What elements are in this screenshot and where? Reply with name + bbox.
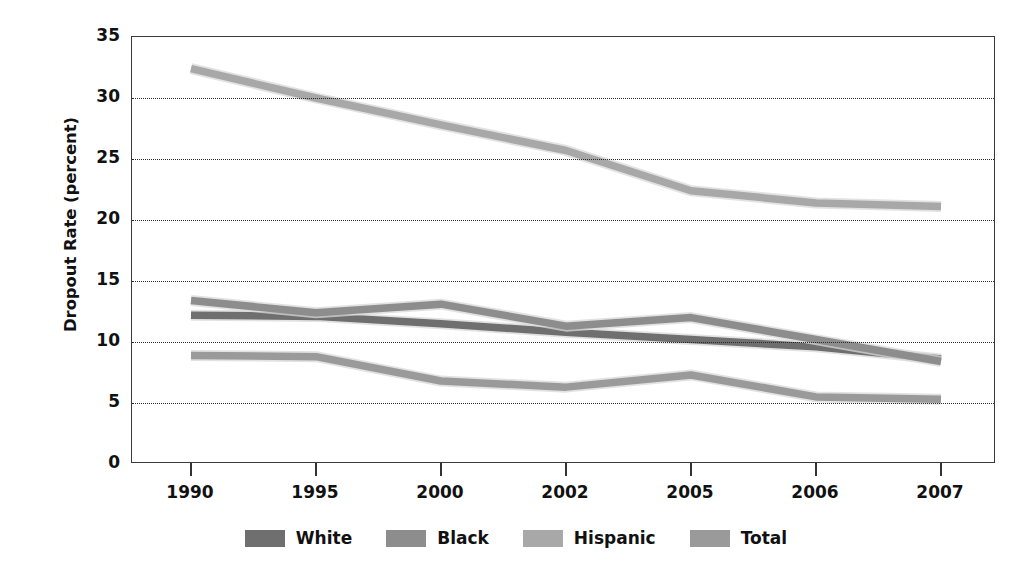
y-tick-label-5: 5 [76, 391, 120, 411]
y-tick-label-20: 20 [76, 208, 120, 228]
series-halo-total [191, 355, 941, 399]
y-tick-label-25: 25 [76, 147, 120, 167]
gridline-20 [132, 220, 994, 221]
dropout-rate-line-chart: Dropout Rate (percent) 35302520151050 19… [0, 0, 1032, 581]
legend-item-black[interactable]: Black [386, 528, 489, 548]
gridline-30 [132, 98, 994, 99]
legend-label-white: White [296, 528, 352, 548]
chart-legend: WhiteBlackHispanicTotal [0, 528, 1032, 548]
x-tick-mark-2000 [440, 463, 442, 476]
x-tick-label-2007: 2007 [880, 482, 1000, 502]
gridline-15 [132, 281, 994, 282]
x-tick-label-1995: 1995 [255, 482, 375, 502]
series-line-hispanic [191, 69, 941, 207]
legend-item-hispanic[interactable]: Hispanic [523, 528, 656, 548]
series-lines [132, 37, 996, 464]
legend-item-total[interactable]: Total [690, 528, 787, 548]
y-tick-label-0: 0 [76, 452, 120, 472]
x-tick-mark-1990 [190, 463, 192, 476]
y-tick-label-10: 10 [76, 330, 120, 350]
y-tick-label-15: 15 [76, 269, 120, 289]
series-halo-hispanic [191, 69, 941, 207]
x-tick-mark-2002 [565, 463, 567, 476]
legend-item-white[interactable]: White [245, 528, 352, 548]
x-tick-mark-1995 [315, 463, 317, 476]
gridline-10 [132, 342, 994, 343]
legend-swatch-icon-total [690, 530, 730, 547]
x-tick-label-2002: 2002 [505, 482, 625, 502]
y-tick-label-30: 30 [76, 86, 120, 106]
x-tick-mark-2005 [690, 463, 692, 476]
x-tick-label-2000: 2000 [380, 482, 500, 502]
figure-top-caption [120, 0, 1020, 3]
y-tick-label-35: 35 [76, 25, 120, 45]
legend-swatch-icon-hispanic [523, 530, 563, 547]
plot-area [131, 36, 995, 463]
x-tick-label-1990: 1990 [130, 482, 250, 502]
x-axis: 1990199520002002200520062007 [131, 463, 995, 523]
x-tick-mark-2007 [940, 463, 942, 476]
gridline-25 [132, 159, 994, 160]
x-tick-label-2006: 2006 [755, 482, 875, 502]
y-axis-tick-labels: 35302520151050 [72, 0, 120, 581]
x-tick-mark-2006 [815, 463, 817, 476]
gridline-5 [132, 403, 994, 404]
x-tick-label-2005: 2005 [630, 482, 750, 502]
legend-label-hispanic: Hispanic [574, 528, 656, 548]
legend-label-black: Black [437, 528, 489, 548]
legend-swatch-icon-black [386, 530, 426, 547]
legend-label-total: Total [741, 528, 787, 548]
legend-swatch-icon-white [245, 530, 285, 547]
